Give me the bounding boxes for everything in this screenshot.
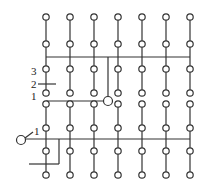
- node-icon: [43, 172, 49, 178]
- node-icon: [67, 148, 73, 154]
- node-icon: [139, 14, 145, 20]
- node-icon: [43, 125, 49, 131]
- node-icon: [115, 14, 121, 20]
- node-icon: [163, 41, 169, 47]
- node-icon: [115, 90, 121, 96]
- node-icon: [115, 66, 121, 72]
- node-icon: [91, 66, 97, 72]
- node-icon: [187, 125, 193, 131]
- node-icon: [115, 148, 121, 154]
- node-icon: [139, 41, 145, 47]
- node-icon: [43, 148, 49, 154]
- node-icon: [91, 41, 97, 47]
- node-icon: [139, 101, 145, 107]
- node-icon: [163, 148, 169, 154]
- node-icon: [187, 101, 193, 107]
- node-icon: [67, 172, 73, 178]
- node-icon: [43, 14, 49, 20]
- node-icon: [91, 125, 97, 131]
- node-icon: [43, 41, 49, 47]
- grid-wiring-diagram: 3 2 1 1: [0, 0, 207, 192]
- node-icon: [139, 148, 145, 154]
- label-3: 3: [31, 65, 37, 77]
- node-icon: [187, 148, 193, 154]
- node-icon: [115, 125, 121, 131]
- node-icon: [187, 66, 193, 72]
- node-icon: [163, 90, 169, 96]
- label-1-lower: 1: [34, 125, 40, 137]
- node-icon: [67, 90, 73, 96]
- diagram-svg: 3 2 1 1: [0, 0, 207, 192]
- node-icon: [187, 41, 193, 47]
- node-icon: [67, 125, 73, 131]
- node-icon: [187, 14, 193, 20]
- node-icon: [163, 14, 169, 20]
- leader-line-1: [25, 132, 33, 138]
- node-icon: [67, 14, 73, 20]
- node-icon: [115, 172, 121, 178]
- node-icon: [91, 148, 97, 154]
- node-icon: [67, 101, 73, 107]
- nodes: [17, 14, 194, 178]
- node-icon: [91, 14, 97, 20]
- label-1-upper: 1: [31, 90, 37, 102]
- node-icon: [91, 172, 97, 178]
- node-icon: [139, 90, 145, 96]
- node-icon: [67, 66, 73, 72]
- node-icon: [115, 101, 121, 107]
- node-icon: [43, 90, 49, 96]
- node-icon: [139, 66, 145, 72]
- node-icon: [187, 172, 193, 178]
- label-2: 2: [31, 78, 37, 90]
- node-icon: [115, 41, 121, 47]
- upper-terminal-icon: [104, 97, 113, 106]
- node-icon: [139, 125, 145, 131]
- node-icon: [91, 90, 97, 96]
- node-icon: [43, 101, 49, 107]
- node-icon: [163, 172, 169, 178]
- node-icon: [139, 172, 145, 178]
- node-icon: [163, 125, 169, 131]
- node-icon: [91, 101, 97, 107]
- node-icon: [187, 90, 193, 96]
- node-icon: [163, 66, 169, 72]
- lower-terminal-icon: [17, 136, 26, 145]
- node-icon: [67, 41, 73, 47]
- node-icon: [163, 101, 169, 107]
- node-icon: [43, 66, 49, 72]
